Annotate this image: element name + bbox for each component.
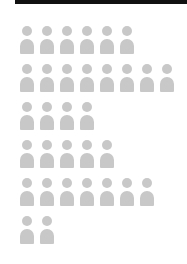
person-icon (60, 102, 74, 132)
person-icon (80, 102, 94, 132)
pictogram-row (20, 140, 174, 178)
person-icon (60, 26, 74, 56)
person-icon (60, 140, 74, 170)
person-icon (40, 140, 54, 170)
person-icon (80, 26, 94, 56)
person-icon (20, 102, 34, 132)
person-icon (20, 26, 34, 56)
person-icon (120, 64, 134, 94)
person-icon (100, 178, 114, 208)
person-icon (100, 140, 114, 170)
person-icon (100, 64, 114, 94)
pictogram-row (20, 216, 174, 254)
person-icon (120, 178, 134, 208)
header-bar (15, 0, 187, 4)
person-icon (120, 26, 134, 56)
person-icon (60, 64, 74, 94)
pictogram-row (20, 64, 174, 102)
person-icon (140, 64, 154, 94)
person-icon (100, 26, 114, 56)
person-icon (80, 178, 94, 208)
pictogram-row (20, 26, 174, 64)
person-icon (80, 64, 94, 94)
person-icon (20, 140, 34, 170)
person-icon (40, 102, 54, 132)
person-icon (20, 64, 34, 94)
pictogram-chart (20, 26, 174, 254)
person-icon (40, 26, 54, 56)
person-icon (40, 178, 54, 208)
person-icon (80, 140, 94, 170)
pictogram-row (20, 102, 174, 140)
person-icon (40, 216, 54, 246)
person-icon (40, 64, 54, 94)
person-icon (20, 178, 34, 208)
person-icon (60, 178, 74, 208)
person-icon (20, 216, 34, 246)
person-icon (160, 64, 174, 94)
person-icon (140, 178, 154, 208)
pictogram-row (20, 178, 174, 216)
